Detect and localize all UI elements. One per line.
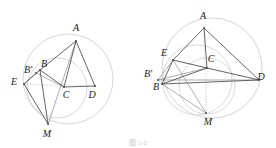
vertex-dot-a <box>75 40 77 42</box>
vertex-dot-e <box>23 83 25 85</box>
point-label-e: E <box>10 76 17 87</box>
point-label-b: B <box>41 58 47 69</box>
point-label-m: M <box>203 116 213 127</box>
vertex-dot-b <box>161 83 163 85</box>
point-label-a: A <box>72 22 80 33</box>
vertex-dot-e <box>172 59 174 61</box>
vertex-dot-d <box>94 85 96 87</box>
point-label-c: C <box>208 53 215 64</box>
point-label-e: E <box>160 47 167 58</box>
vertex-dot-a <box>203 27 205 29</box>
point-label-b: B <box>153 81 159 92</box>
vertex-dot-bp <box>35 72 37 74</box>
point-label-d: D <box>256 71 265 82</box>
point-label-bp: B' <box>24 64 33 75</box>
point-label-a: A <box>199 10 207 21</box>
point-label-d: D <box>87 89 96 100</box>
vertex-dot-b <box>39 69 41 71</box>
vertex-dot-m <box>205 112 207 114</box>
vertex-dot-m <box>47 123 49 125</box>
point-label-bp: B' <box>144 68 153 79</box>
point-label-c: C <box>63 89 70 100</box>
figure-caption: 图 1-2 <box>129 139 148 147</box>
vertex-dot-c <box>63 86 65 88</box>
vertex-dot-c <box>206 67 208 69</box>
point-label-m: M <box>42 128 52 139</box>
geometry-figure-svg: ABB'ECDMAEB'BCDM 图 1-2 <box>0 0 276 148</box>
geometry-figure-container: ABB'ECDMAEB'BCDM 图 1-2 <box>0 0 276 148</box>
